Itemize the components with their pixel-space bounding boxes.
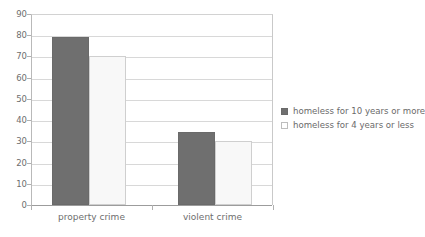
- y-axis-tick-label: 20: [3, 158, 27, 167]
- y-axis-tick-label: 0: [3, 201, 27, 210]
- plot-area: [31, 14, 273, 205]
- legend-swatch-outlined-square-icon: [281, 122, 288, 129]
- legend-item-10-years-or-more: homeless for 10 years or more: [281, 104, 423, 118]
- bar-violent-crime-4-years-or-less: [215, 141, 252, 205]
- y-axis-tick-label: 90: [3, 10, 27, 19]
- legend-swatch-filled-square-icon: [281, 108, 288, 115]
- y-axis-tick-label: 40: [3, 116, 27, 125]
- y-axis-tick-label: 30: [3, 137, 27, 146]
- x-axis-tick-mark: [152, 205, 153, 210]
- legend-label: homeless for 10 years or more: [293, 107, 425, 116]
- bar-property-crime-4-years-or-less: [89, 56, 126, 205]
- chart-legend: homeless for 10 years or more homeless f…: [281, 104, 423, 132]
- y-axis-tick-label: 10: [3, 180, 27, 189]
- legend-label: homeless for 4 years or less: [293, 121, 414, 130]
- x-axis-label-property-crime: property crime: [31, 213, 152, 223]
- x-axis-label-violent-crime: violent crime: [152, 213, 273, 223]
- y-axis-tick-label: 80: [3, 31, 27, 40]
- legend-item-4-years-or-less: homeless for 4 years or less: [281, 118, 423, 132]
- x-axis-tick-mark: [273, 205, 274, 210]
- bar-violent-crime-10-years-or-more: [178, 132, 215, 205]
- bar-chart: 90 80 70 60 50 40 30 20 10 0 property cr…: [0, 0, 425, 237]
- y-axis-tick-label: 70: [3, 52, 27, 61]
- y-axis-tick-label: 50: [3, 95, 27, 104]
- bar-property-crime-10-years-or-more: [52, 37, 89, 205]
- y-axis-tick-label: 60: [3, 73, 27, 82]
- x-axis-tick-mark: [31, 205, 32, 210]
